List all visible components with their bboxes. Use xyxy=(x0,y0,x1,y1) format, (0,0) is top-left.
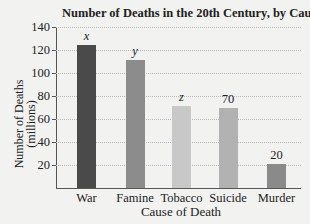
y-tick xyxy=(52,27,56,28)
y-tick xyxy=(52,50,56,51)
y-tick-label: 20 xyxy=(26,159,50,171)
bar-value-label: 70 xyxy=(208,92,248,107)
y-tick-label: 60 xyxy=(26,113,50,125)
plot-area: 20406080100120140xWaryFaminezTobacco70Su… xyxy=(56,27,301,188)
bar-war xyxy=(77,45,96,188)
bar-value-label: y xyxy=(115,44,155,59)
y-tick-label: 120 xyxy=(26,44,50,56)
bar-murder xyxy=(267,164,286,188)
y-tick-label: 80 xyxy=(26,90,50,102)
bar-suicide xyxy=(219,108,238,189)
bar-famine xyxy=(126,60,145,188)
y-tick-label: 140 xyxy=(26,21,50,33)
y-tick xyxy=(52,165,56,166)
bar-value-label: z xyxy=(162,90,202,105)
y-tick-label: 100 xyxy=(26,67,50,79)
bar-value-label: x xyxy=(67,29,107,44)
bar-tobacco xyxy=(172,106,191,188)
chart-title: Number of Deaths in the 20th Century, by… xyxy=(62,6,310,21)
gridline xyxy=(56,27,301,28)
y-tick xyxy=(52,119,56,120)
x-axis xyxy=(56,188,301,189)
y-axis xyxy=(56,27,57,188)
bar-value-label: 20 xyxy=(257,148,297,163)
y-tick xyxy=(52,73,56,74)
y-tick xyxy=(52,96,56,97)
y-tick-label: 40 xyxy=(26,136,50,148)
x-axis-label: Cause of Death xyxy=(56,204,306,220)
y-tick xyxy=(52,142,56,143)
